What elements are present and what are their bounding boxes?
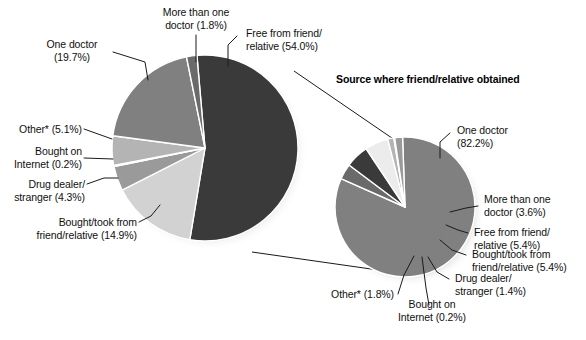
pie-chart-figure: Source where friend/relative obtained Mo… [0, 0, 586, 340]
leader-left-one-doctor [113, 52, 148, 80]
label-right-other: Other* (1.8%) [306, 288, 394, 301]
detail-pie [335, 137, 475, 277]
main-pie [112, 55, 298, 241]
label-left-more-than-one-doctor: More than onedoctor (1.8%) [146, 6, 246, 31]
label-right-bought-on-internet: Bought onInternet (0.2%) [383, 298, 481, 323]
label-right-drug-dealer: Drug dealer/stranger (1.4%) [455, 272, 555, 297]
label-left-bought-on-internet: Bought onInternet (0.2%) [0, 145, 82, 170]
leader-left-other [84, 129, 112, 139]
leader-left-bought-on-internet [84, 158, 113, 159]
label-left-one-doctor: One doctor(19.7%) [30, 38, 114, 63]
pie-slices-group [112, 55, 475, 277]
label-right-bought-took-from-friend: Bought/took fromfriend/relative (5.4%) [472, 248, 586, 273]
detail-pie-subtitle: Source where friend/relative obtained [336, 73, 520, 86]
label-right-more-than-one-doctor: More than onedoctor (3.6%) [484, 193, 584, 218]
label-left-free-from-friend: Free from friend/relative (54.0%) [246, 27, 366, 52]
label-right-one-doctor: One doctor(82.2%) [457, 124, 567, 149]
label-left-drug-dealer: Drug dealer/stranger (4.3%) [0, 178, 85, 203]
label-left-other: Other* (5.1%) [0, 123, 82, 136]
label-left-bought-took-from-friend: Bought/took fromfriend/relative (14.9%) [0, 216, 137, 241]
leader-left-drug-dealer [87, 178, 118, 184]
